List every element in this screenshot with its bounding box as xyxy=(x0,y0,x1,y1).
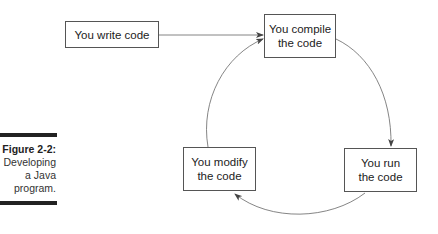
caption-line-2: a Java xyxy=(0,169,56,182)
caption-line-3: program. xyxy=(0,182,56,195)
node-run-code: You run the code xyxy=(344,148,417,192)
node-write-code: You write code xyxy=(65,21,159,48)
caption-line-1: Developing xyxy=(0,156,56,169)
node-label-line1: You run xyxy=(358,156,402,170)
node-modify-code: You modify the code xyxy=(183,147,256,191)
arrow-run-to-modify xyxy=(235,193,365,214)
caption-bottom-bar xyxy=(0,201,57,205)
arrow-modify-to-compile xyxy=(207,39,263,147)
node-label: You write code xyxy=(74,28,149,42)
arrow-compile-to-run xyxy=(336,39,391,146)
node-label-line2: the code xyxy=(269,36,331,50)
node-label-line1: You modify xyxy=(191,155,247,169)
node-compile-code: You compile the code xyxy=(264,14,336,58)
node-label-line2: the code xyxy=(191,169,247,183)
figure-caption: Figure 2-2: Developing a Java program. xyxy=(0,133,57,205)
node-label-line1: You compile xyxy=(269,22,331,36)
node-label-line2: the code xyxy=(358,170,402,184)
caption-title: Figure 2-2: xyxy=(0,143,56,156)
